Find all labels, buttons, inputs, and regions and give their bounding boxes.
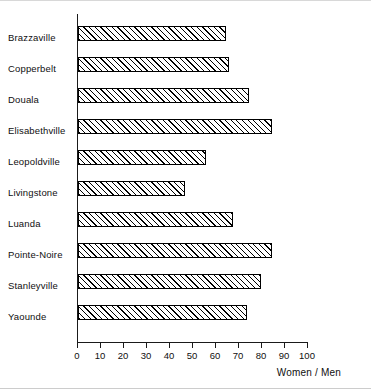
bar-douala xyxy=(78,88,249,103)
x-tick-label-60: 60 xyxy=(210,350,221,361)
x-tick-label-40: 40 xyxy=(164,350,175,361)
bar-copperbelt xyxy=(78,57,229,72)
category-label-copperbelt: Copperbelt xyxy=(8,63,67,75)
x-tick-90 xyxy=(284,343,285,348)
x-tick-40 xyxy=(169,343,170,348)
x-tick-0 xyxy=(77,343,78,348)
chart-figure: Brazzaville Copperbelt Douala Elisabethv… xyxy=(0,0,371,389)
x-tick-100 xyxy=(307,343,308,348)
x-tick-10 xyxy=(100,343,101,348)
category-label-pointe-noire: Pointe-Noire xyxy=(8,249,67,261)
bar-livingstone xyxy=(78,181,185,196)
x-tick-label-80: 80 xyxy=(256,350,267,361)
category-label-leopoldville: Leopoldville xyxy=(8,156,67,168)
x-tick-50 xyxy=(192,343,193,348)
x-tick-label-30: 30 xyxy=(141,350,152,361)
bar-leopoldville xyxy=(78,150,206,165)
category-label-luanda: Luanda xyxy=(8,218,67,230)
category-label-brazzaville: Brazzaville xyxy=(8,32,67,44)
x-tick-label-90: 90 xyxy=(279,350,290,361)
category-label-douala: Douala xyxy=(8,94,67,106)
category-label-stanleyville: Stanleyville xyxy=(8,280,67,292)
bar-elisabethville xyxy=(78,119,272,134)
category-label-yaounde: Yaounde xyxy=(8,311,67,323)
category-label-elisabethville: Elisabethville xyxy=(8,125,67,137)
x-tick-label-10: 10 xyxy=(95,350,106,361)
x-tick-label-70: 70 xyxy=(233,350,244,361)
x-tick-70 xyxy=(238,343,239,348)
x-tick-20 xyxy=(123,343,124,348)
x-tick-60 xyxy=(215,343,216,348)
bar-yaounde xyxy=(78,305,247,320)
bar-luanda xyxy=(78,212,233,227)
x-tick-label-20: 20 xyxy=(118,350,129,361)
bar-brazzaville xyxy=(78,26,226,41)
x-tick-30 xyxy=(146,343,147,348)
x-axis-title: Women / Men xyxy=(277,367,341,378)
x-tick-label-0: 0 xyxy=(74,350,79,361)
x-tick-80 xyxy=(261,343,262,348)
category-label-livingstone: Livingstone xyxy=(8,187,67,199)
x-tick-label-50: 50 xyxy=(187,350,198,361)
bar-pointe-noire xyxy=(78,243,272,258)
bar-chart-plot-area: Brazzaville Copperbelt Douala Elisabethv… xyxy=(0,1,371,389)
x-tick-label-100: 100 xyxy=(299,350,315,361)
bar-stanleyville xyxy=(78,274,261,289)
